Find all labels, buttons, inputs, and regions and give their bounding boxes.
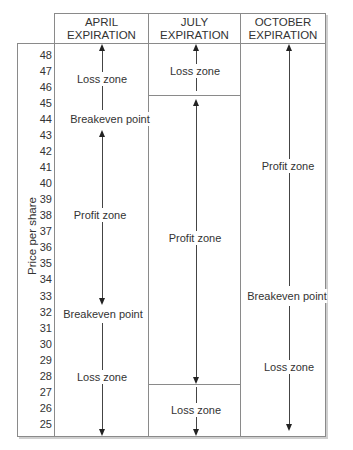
tick: 39	[22, 193, 52, 205]
tick: 44	[22, 113, 52, 125]
tick: 40	[22, 177, 52, 189]
october-breakeven: Breakeven point	[247, 289, 327, 303]
tick: 38	[22, 209, 52, 221]
tick: 48	[22, 49, 52, 61]
april-loss-zone-bottom: Loss zone	[77, 370, 127, 384]
april-loss-zone-top: Loss zone	[77, 72, 127, 86]
tick: 27	[22, 386, 52, 398]
july-bottom-split-line	[148, 384, 241, 385]
july-top-split-line	[148, 95, 241, 96]
tick: 46	[22, 81, 52, 93]
arrow-up-icon	[193, 99, 199, 106]
header-july: JULY EXPIRATION	[149, 16, 240, 42]
tick: 37	[22, 225, 52, 237]
arrow-down-icon	[99, 298, 105, 305]
tick: 36	[22, 241, 52, 253]
header-april-line1: APRIL	[55, 16, 148, 29]
tick: 47	[22, 65, 52, 77]
tick: 30	[22, 338, 52, 350]
arrow-down-icon	[99, 429, 105, 436]
tick: 35	[22, 257, 52, 269]
july-loss-zone-bottom: Loss zone	[171, 403, 221, 417]
october-profit-zone: Profit zone	[262, 159, 315, 173]
y-axis-ticks: 48 47 46 45 44 43 42 41 40 39 38 37 36 3…	[20, 0, 52, 450]
tick: 28	[22, 370, 52, 382]
tick: 25	[22, 418, 52, 430]
arrow-down-icon	[193, 429, 199, 436]
arrow-down-icon	[193, 377, 199, 384]
tick: 29	[22, 354, 52, 366]
tick: 26	[22, 402, 52, 414]
column-divider-april	[54, 43, 55, 437]
april-breakeven-bottom: Breakeven point	[63, 307, 143, 321]
july-profit-zone: Profit zone	[169, 231, 222, 245]
tick: 33	[22, 290, 52, 302]
october-loss-zone: Loss zone	[264, 360, 314, 374]
arrow-up-icon	[99, 44, 105, 51]
july-loss-zone-top: Loss zone	[170, 64, 220, 78]
arrow-up-icon	[99, 130, 105, 137]
header-july-line1: JULY	[149, 16, 240, 29]
april-profit-zone: Profit zone	[74, 208, 127, 222]
tick: 34	[22, 273, 52, 285]
arrow-up-icon	[193, 44, 199, 51]
header-october: OCTOBER EXPIRATION	[241, 16, 325, 42]
tick: 32	[22, 306, 52, 318]
header-april-line2: EXPIRATION	[55, 29, 148, 42]
tick: 41	[22, 161, 52, 173]
column-divider-october	[240, 13, 241, 437]
header-april: APRIL EXPIRATION	[55, 16, 148, 42]
april-breakeven-top: Breakeven point	[70, 112, 150, 126]
header-october-line1: OCTOBER	[241, 16, 325, 29]
tick: 42	[22, 145, 52, 157]
tick: 45	[22, 97, 52, 109]
header-july-line2: EXPIRATION	[149, 29, 240, 42]
arrow-down-icon	[286, 424, 292, 431]
arrow-up-icon	[286, 44, 292, 51]
column-divider-july	[148, 13, 149, 437]
tick: 43	[22, 129, 52, 141]
header-october-line2: EXPIRATION	[241, 29, 325, 42]
tick: 31	[22, 322, 52, 334]
